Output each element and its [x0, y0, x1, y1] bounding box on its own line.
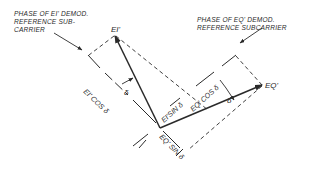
ei-cos-label: EI' COS δ: [82, 87, 112, 116]
delta-left-label: δ: [124, 88, 129, 97]
ei-sin-label: EI'SIN δ: [159, 100, 185, 125]
q-note-line-2: REFERENCE SUBCARRIER: [197, 24, 287, 31]
projection-lines: [89, 36, 262, 150]
q-reference-axis: [133, 55, 236, 146]
i-reference-note: PHASE OF EI' DEMOD. REFERENCE SUB- CARRI…: [14, 10, 89, 33]
delta-right-label: δ: [227, 96, 232, 105]
ei-vector-label: EI': [111, 25, 121, 34]
i-note-line-2: REFERENCE SUB-: [14, 18, 76, 25]
i-note-line-1: PHASE OF EI' DEMOD.: [14, 10, 89, 17]
eq-sin-label: EQ' SIN δ: [158, 132, 187, 162]
q-reference-note: PHASE OF EQ' DEMOD. REFERENCE SUBCARRIER: [197, 16, 287, 31]
i-note-pointer: [54, 33, 82, 50]
q-note-line-1: PHASE OF EQ' DEMOD.: [197, 16, 275, 24]
phasor-diagram: PHASE OF EI' DEMOD. REFERENCE SUB- CARRI…: [0, 0, 312, 176]
ei-vector: [115, 36, 160, 128]
eq-vector-label: EQ': [265, 81, 279, 90]
i-note-line-3: CARRIER: [14, 26, 45, 33]
